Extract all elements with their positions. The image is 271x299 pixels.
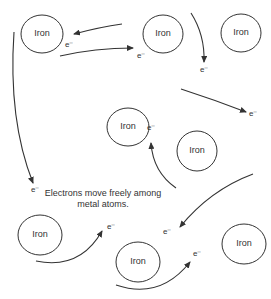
- svg-text:Iron: Iron: [155, 28, 171, 38]
- arrow-icon: [180, 174, 253, 227]
- diagram-caption: Electrons move freely among metal atoms.: [28, 188, 178, 210]
- iron-atom: Iron: [107, 108, 149, 146]
- svg-text:Iron: Iron: [120, 121, 136, 131]
- caption-line-2: metal atoms.: [28, 199, 178, 210]
- arrow-icon: [191, 13, 204, 62]
- iron-atom: Iron: [222, 224, 266, 264]
- electron-label: e⁻: [137, 51, 145, 60]
- svg-text:Iron: Iron: [34, 28, 50, 38]
- iron-atom: Iron: [177, 131, 217, 171]
- electron-label: e⁻: [193, 249, 201, 258]
- arrow-icon: [13, 32, 33, 183]
- electron-label: e⁻: [147, 123, 155, 132]
- metallic-bonding-diagram: Iron Iron Iron Iron Iron Iron Iron Iron: [0, 0, 271, 299]
- iron-atom: Iron: [143, 15, 183, 53]
- arrow-icon: [181, 89, 246, 112]
- caption-line-1: Electrons move freely among: [28, 188, 178, 199]
- svg-text:Iron: Iron: [233, 27, 249, 37]
- electron-label: e⁻: [200, 65, 208, 74]
- arrow-icon: [151, 143, 176, 188]
- iron-atom: Iron: [21, 15, 63, 53]
- electron-label: e⁻: [163, 227, 171, 236]
- arrow-icon: [74, 24, 122, 34]
- svg-text:Iron: Iron: [130, 256, 146, 266]
- iron-atom: Iron: [18, 215, 62, 255]
- iron-atom: Iron: [116, 242, 160, 282]
- electron-label: e⁻: [107, 222, 115, 231]
- electron-label: e⁻: [249, 109, 257, 118]
- svg-text:Iron: Iron: [236, 238, 252, 248]
- svg-text:Iron: Iron: [32, 229, 48, 239]
- electron-label: e⁻: [65, 40, 73, 49]
- arrow-icon: [116, 262, 190, 289]
- arrow-icon: [60, 48, 133, 56]
- iron-atom: Iron: [221, 14, 261, 52]
- svg-text:Iron: Iron: [189, 145, 205, 155]
